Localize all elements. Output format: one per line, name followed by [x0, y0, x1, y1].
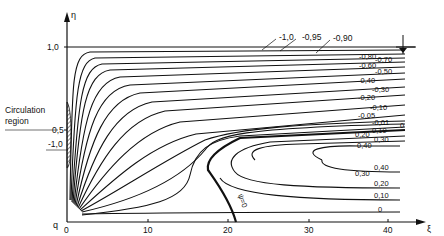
x-tick-30: 30 [304, 225, 314, 235]
svg-text:-0,60: -0,60 [359, 61, 376, 70]
x-tick-10: 10 [143, 225, 153, 235]
svg-text:-0,40: -0,40 [358, 76, 375, 85]
contour-diagram: η ξ q 1,0 0,5 0 10 20 30 40 Circulation … [0, 0, 444, 236]
svg-text:0,30: 0,30 [355, 169, 370, 178]
x-tick-20: 20 [223, 225, 233, 235]
svg-text:-0,70: -0,70 [375, 55, 392, 64]
svg-text:0,10: 0,10 [374, 191, 389, 200]
circulation-value: -1,0 [48, 139, 63, 149]
x-tick-40: 40 [383, 225, 393, 235]
label-minus-1: -1,0 [279, 32, 294, 42]
circulation-label-2: region [5, 116, 29, 126]
svg-text:0,40: 0,40 [374, 163, 389, 172]
label-minus-090: -0,90 [333, 33, 353, 43]
svg-text:-0,50: -0,50 [375, 67, 392, 76]
origin-label: q [53, 220, 58, 230]
svg-text:0,40: 0,40 [357, 141, 372, 150]
right-labels: -0,80 -0,70 -0,60 -0,50 -0,40 -0,30 -0,2… [355, 52, 404, 214]
svg-text:0: 0 [378, 205, 382, 214]
svg-text:0: 0 [400, 121, 404, 130]
svg-text:-0,80: -0,80 [359, 52, 376, 61]
x-axis-arrow-icon [416, 219, 426, 225]
y-tick-1: 1,0 [47, 42, 59, 52]
svg-text:0,20: 0,20 [374, 179, 389, 188]
svg-text:0,10: 0,10 [372, 126, 387, 135]
y-axis-symbol: η [71, 10, 76, 20]
label-minus-095: -0,95 [302, 32, 322, 42]
svg-text:0,30: 0,30 [374, 135, 389, 144]
svg-text:0,20: 0,20 [355, 130, 370, 139]
x-axis-symbol: ξ [427, 224, 431, 234]
circulation-label: Circulation [5, 105, 45, 115]
x-tick-0: 0 [64, 225, 69, 235]
zero-stream-label: ψ=0 [236, 193, 249, 209]
free-surface-marker-icon [396, 35, 416, 54]
y-axis-arrow-icon [64, 12, 70, 22]
svg-text:-0,20: -0,20 [358, 93, 375, 102]
